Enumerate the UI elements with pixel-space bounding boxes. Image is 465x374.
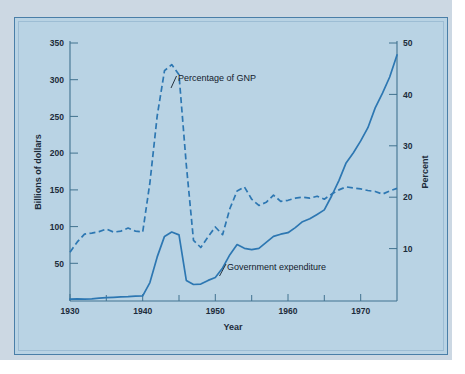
line-chart: 350 300 250 200 150 100 50 50 40 30 20 1… xyxy=(0,0,465,374)
annotation-leader-gnp xyxy=(171,76,177,88)
series-line-percentage-of-gnp xyxy=(70,65,397,253)
annotation-government-expenditure: Government expenditure xyxy=(220,262,327,276)
x-axis-title: Year xyxy=(223,322,243,332)
y-right-tick-label-30: 30 xyxy=(403,141,413,151)
y-left-tick-label-350: 350 xyxy=(50,38,64,48)
x-tick-label-1940: 1940 xyxy=(133,306,152,316)
y-right-tick-label-40: 40 xyxy=(403,90,413,100)
y-left-tick-label-200: 200 xyxy=(50,148,64,158)
y-left-ticks: 350 300 250 200 150 100 50 xyxy=(50,38,78,268)
y-right-axis-title: Percent xyxy=(420,155,430,188)
figure-root: 350 300 250 200 150 100 50 50 40 30 20 1… xyxy=(0,0,465,374)
y-left-tick-label-250: 250 xyxy=(50,112,64,122)
y-left-axis-title: Billions of dollars xyxy=(33,134,43,210)
x-tick-label-1970: 1970 xyxy=(351,306,370,316)
annotation-percentage-of-gnp: Percentage of GNP xyxy=(171,73,256,88)
y-left-tick-label-300: 300 xyxy=(50,75,64,85)
x-tick-label-1930: 1930 xyxy=(61,306,80,316)
y-left-tick-label-100: 100 xyxy=(50,222,64,232)
y-left-tick-label-50: 50 xyxy=(55,259,65,269)
y-left-tick-label-150: 150 xyxy=(50,185,64,195)
annotation-label-expenditure: Government expenditure xyxy=(227,262,326,272)
x-tick-label-1950: 1950 xyxy=(206,306,225,316)
y-right-tick-label-10: 10 xyxy=(403,244,413,254)
x-tick-label-1960: 1960 xyxy=(279,306,298,316)
y-right-tick-label-20: 20 xyxy=(403,192,413,202)
annotation-label-gnp: Percentage of GNP xyxy=(178,73,256,83)
y-right-tick-label-50: 50 xyxy=(403,38,413,48)
